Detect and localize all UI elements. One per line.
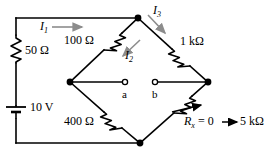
current-i3-label: I3 <box>153 4 161 19</box>
circuit-diagram: I1 I2 I3 50 Ω 100 Ω 1 kΩ 10 V 400 Ω Rx =… <box>0 0 275 155</box>
resistor-100-ohm-symbol <box>104 33 126 51</box>
variable-resistor-rx-range-end: 5 kΩ <box>240 115 264 127</box>
resistor-100-ohm-label: 100 Ω <box>64 34 94 46</box>
node-right <box>205 79 212 86</box>
node-left <box>67 79 74 86</box>
terminal-b-circle[interactable] <box>152 79 157 84</box>
variable-resistor-rx-label: Rx = 0 <box>184 115 214 130</box>
terminal-b-label: b <box>152 89 158 100</box>
battery-symbol <box>6 105 26 119</box>
terminal-a-label: a <box>122 89 127 100</box>
resistor-50-ohm-symbol <box>11 35 21 63</box>
resistor-400-ohm-symbol <box>101 112 122 130</box>
resistor-1-kilohm-label: 1 kΩ <box>180 35 204 47</box>
node-bottom <box>137 140 144 147</box>
battery-label: 10 V <box>30 101 53 113</box>
current-i1-label: I1 <box>40 20 48 35</box>
terminal-a-circle[interactable] <box>122 79 127 84</box>
resistor-1-kilohm-symbol <box>169 49 190 67</box>
resistor-50-ohm-label: 50 Ω <box>25 44 49 56</box>
resistor-400-ohm-label: 400 Ω <box>64 115 94 127</box>
node-top <box>135 15 142 22</box>
current-i2-label: I2 <box>125 49 133 64</box>
